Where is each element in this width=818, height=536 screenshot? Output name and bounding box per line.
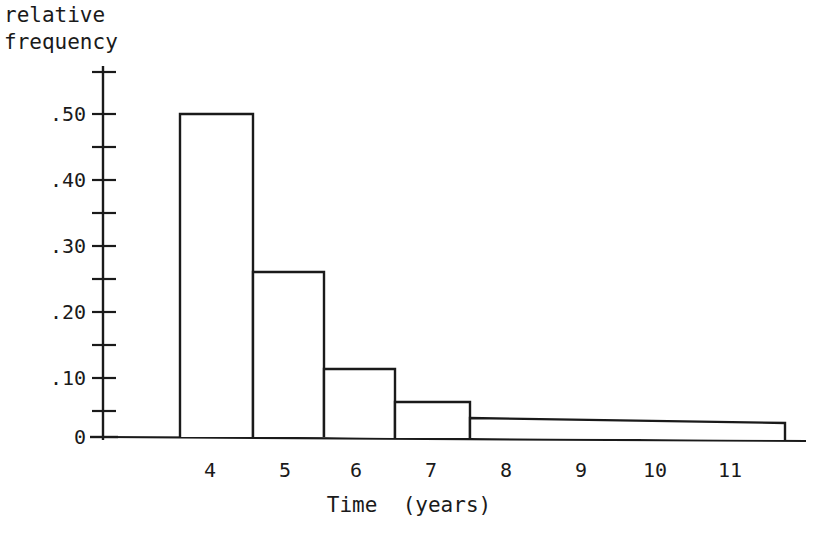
histogram-chart: relativefrequency .50 .40 .30 .20 .10 0	[0, 0, 818, 536]
bar-6	[324, 369, 395, 438]
x-tick-label-11: 11	[710, 460, 750, 480]
plot-area	[0, 0, 818, 536]
bar-4	[180, 114, 253, 437]
x-tick-label-7: 7	[411, 460, 451, 480]
x-axis-title: Time (years)	[0, 492, 818, 519]
x-tick-label-4: 4	[190, 460, 230, 480]
bar-8	[470, 418, 785, 440]
x-tick-label-9: 9	[561, 460, 601, 480]
histogram-bars	[180, 114, 785, 440]
x-tick-label-6: 6	[336, 460, 376, 480]
bar-5	[253, 272, 324, 437]
x-tick-label-5: 5	[265, 460, 305, 480]
bar-7	[395, 402, 470, 438]
x-tick-label-10: 10	[635, 460, 675, 480]
x-tick-label-8: 8	[486, 460, 526, 480]
